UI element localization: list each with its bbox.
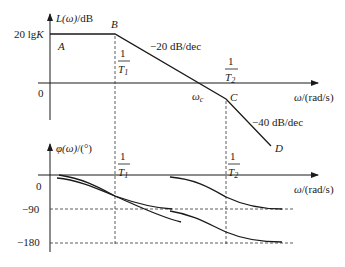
magnitude-y-axis-label: L(ω)/dB bbox=[55, 12, 93, 25]
phase-y-axis-label: φ(ω)/(°) bbox=[56, 142, 92, 155]
magnitude-zero-label: 0 bbox=[38, 87, 44, 99]
svg-text:1: 1 bbox=[120, 150, 126, 162]
phase-tick-minus180: −180 bbox=[17, 236, 40, 248]
point-b-label: B bbox=[111, 18, 118, 30]
svg-text:1: 1 bbox=[230, 150, 236, 162]
magnitude-x-axis-label: ω/(rad/s) bbox=[294, 91, 334, 104]
point-d-label: D bbox=[274, 142, 283, 154]
svg-text:T1: T1 bbox=[118, 63, 128, 77]
phase-tick-minus90: −90 bbox=[22, 203, 40, 215]
phase-plot: φ(ω)/(°) ω/(rad/s) 0 −90 −180 1 T1 1 T2 bbox=[17, 142, 334, 252]
corner2-fraction-upper: 1 T2 bbox=[225, 55, 238, 85]
phase-curve-pole1 bbox=[57, 178, 172, 209]
svg-text:T2: T2 bbox=[228, 166, 238, 180]
phase-tick-0: 0 bbox=[36, 180, 42, 192]
svg-text:1: 1 bbox=[228, 55, 234, 67]
slope-minus20-label: −20 dB/dec bbox=[150, 40, 201, 52]
bode-diagram: L(ω)/dB 20 lgK 0 A B C D −20 dB/dec −40 … bbox=[0, 0, 345, 267]
slope-minus40-label: −40 dB/dec bbox=[252, 116, 303, 128]
svg-text:T2: T2 bbox=[225, 71, 235, 85]
level-20lgk-label: 20 lgK bbox=[14, 28, 44, 40]
point-a-label: A bbox=[57, 40, 65, 52]
svg-text:1: 1 bbox=[120, 47, 126, 59]
crossover-frequency-label: ωc bbox=[192, 90, 204, 104]
magnitude-plot: L(ω)/dB 20 lgK 0 A B C D −20 dB/dec −40 … bbox=[14, 12, 334, 154]
point-c-label: C bbox=[230, 91, 238, 103]
corner1-fraction-upper: 1 T1 bbox=[118, 47, 130, 77]
phase-x-axis-label: ω/(rad/s) bbox=[294, 183, 334, 196]
svg-text:T1: T1 bbox=[118, 166, 128, 180]
